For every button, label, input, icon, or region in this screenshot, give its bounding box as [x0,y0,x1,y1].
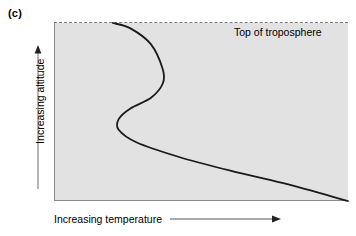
figure-panel-c: (c) Top of troposphere Increasing altitu… [0,0,356,236]
x-axis-label: Increasing temperature [54,214,162,225]
y-axis-group: Increasing altitude [26,44,54,204]
panel-label: (c) [8,8,22,19]
x-axis-arrow-icon [170,214,282,224]
x-axis-group: Increasing temperature [54,210,294,228]
temperature-profile-path [113,23,348,201]
y-axis-label: Increasing altitude [35,35,46,167]
temperature-profile-curve [54,23,348,201]
